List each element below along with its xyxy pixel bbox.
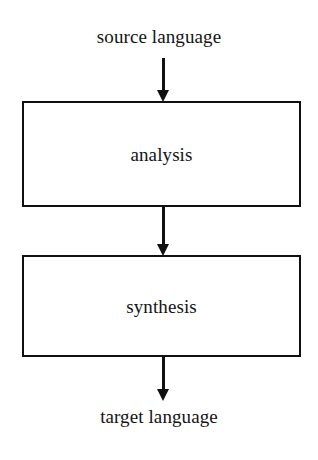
arrow-analysis-to-synthesis xyxy=(157,206,170,256)
arrowhead-down-icon xyxy=(157,389,169,401)
diagram-canvas: source language analysis synthesis targe… xyxy=(0,0,318,460)
process-box-synthesis-label: synthesis xyxy=(126,296,197,318)
label-target-language: target language xyxy=(0,406,318,428)
arrow-source-to-analysis xyxy=(157,58,170,102)
process-box-synthesis: synthesis xyxy=(22,255,301,357)
arrow-shaft xyxy=(162,356,165,391)
arrow-shaft xyxy=(162,206,165,246)
arrow-synthesis-to-target xyxy=(157,356,170,401)
process-box-analysis: analysis xyxy=(22,101,301,207)
process-box-analysis-label: analysis xyxy=(130,144,192,166)
arrow-shaft xyxy=(162,58,165,92)
label-source-language: source language xyxy=(0,26,318,48)
